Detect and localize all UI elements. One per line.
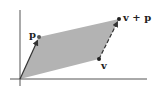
point-v-plus-p xyxy=(117,17,121,21)
label-v-plus-p: v + p xyxy=(123,13,151,23)
point-p xyxy=(37,35,41,39)
label-p: p xyxy=(29,30,36,40)
label-v: v xyxy=(101,61,107,71)
